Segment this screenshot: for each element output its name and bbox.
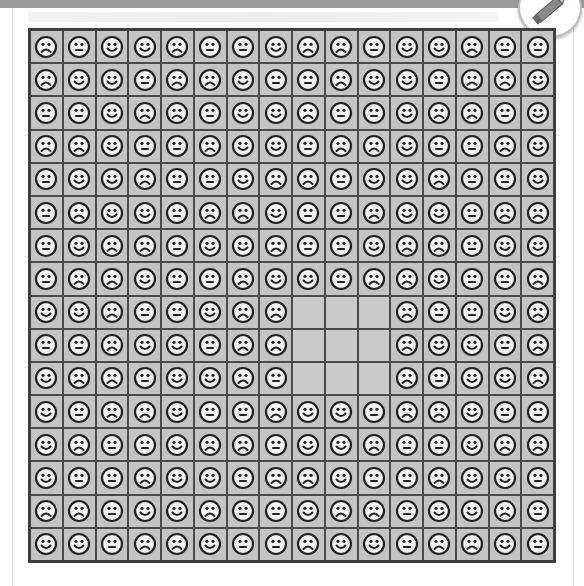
grid-cell[interactable] [522, 529, 553, 560]
grid-cell[interactable] [260, 230, 291, 261]
grid-cell[interactable] [359, 429, 390, 460]
grid-cell[interactable] [228, 230, 259, 261]
grid-cell[interactable] [129, 263, 160, 294]
grid-cell[interactable] [522, 363, 553, 394]
grid-cell[interactable] [31, 64, 62, 95]
empty-slot[interactable] [326, 297, 357, 328]
grid-cell[interactable] [97, 164, 128, 195]
grid-cell[interactable] [424, 462, 455, 493]
grid-cell[interactable] [64, 263, 95, 294]
grid-cell[interactable] [260, 330, 291, 361]
grid-cell[interactable] [391, 429, 422, 460]
grid-cell[interactable] [293, 164, 324, 195]
grid-cell[interactable] [195, 462, 226, 493]
grid-cell[interactable] [522, 263, 553, 294]
grid-cell[interactable] [391, 164, 422, 195]
grid-cell[interactable] [129, 64, 160, 95]
grid-cell[interactable] [97, 131, 128, 162]
grid-cell[interactable] [228, 462, 259, 493]
empty-slot[interactable] [293, 330, 324, 361]
grid-cell[interactable] [424, 529, 455, 560]
grid-cell[interactable] [162, 429, 193, 460]
grid-cell[interactable] [195, 496, 226, 527]
grid-cell[interactable] [522, 230, 553, 261]
empty-slot[interactable] [326, 330, 357, 361]
grid-cell[interactable] [391, 529, 422, 560]
grid-cell[interactable] [424, 297, 455, 328]
grid-cell[interactable] [228, 496, 259, 527]
grid-cell[interactable] [490, 429, 521, 460]
grid-cell[interactable] [195, 64, 226, 95]
grid-cell[interactable] [424, 396, 455, 427]
grid-cell[interactable] [359, 197, 390, 228]
grid-cell[interactable] [490, 297, 521, 328]
grid-cell[interactable] [31, 97, 62, 128]
grid-cell[interactable] [31, 529, 62, 560]
grid-cell[interactable] [97, 297, 128, 328]
grid-cell[interactable] [195, 230, 226, 261]
grid-cell[interactable] [195, 297, 226, 328]
grid-cell[interactable] [424, 31, 455, 62]
grid-cell[interactable] [228, 529, 259, 560]
grid-cell[interactable] [162, 297, 193, 328]
grid-cell[interactable] [162, 64, 193, 95]
grid-cell[interactable] [359, 164, 390, 195]
grid-cell[interactable] [490, 31, 521, 62]
grid-cell[interactable] [326, 64, 357, 95]
grid-cell[interactable] [457, 363, 488, 394]
grid-cell[interactable] [457, 230, 488, 261]
grid-cell[interactable] [293, 230, 324, 261]
grid-cell[interactable] [228, 330, 259, 361]
grid-cell[interactable] [359, 263, 390, 294]
grid-cell[interactable] [129, 164, 160, 195]
grid-cell[interactable] [228, 97, 259, 128]
grid-cell[interactable] [293, 462, 324, 493]
grid-cell[interactable] [490, 396, 521, 427]
grid-cell[interactable] [64, 230, 95, 261]
grid-cell[interactable] [293, 64, 324, 95]
grid-cell[interactable] [260, 363, 291, 394]
grid-cell[interactable] [162, 197, 193, 228]
grid-cell[interactable] [31, 131, 62, 162]
grid-cell[interactable] [260, 263, 291, 294]
grid-cell[interactable] [162, 230, 193, 261]
grid-cell[interactable] [490, 363, 521, 394]
grid-cell[interactable] [129, 230, 160, 261]
grid-cell[interactable] [64, 297, 95, 328]
grid-cell[interactable] [64, 131, 95, 162]
grid-cell[interactable] [97, 31, 128, 62]
grid-cell[interactable] [326, 197, 357, 228]
grid-cell[interactable] [228, 131, 259, 162]
grid-cell[interactable] [97, 64, 128, 95]
grid-cell[interactable] [522, 297, 553, 328]
grid-cell[interactable] [162, 529, 193, 560]
grid-cell[interactable] [97, 396, 128, 427]
grid-cell[interactable] [522, 97, 553, 128]
grid-cell[interactable] [359, 396, 390, 427]
grid-cell[interactable] [490, 263, 521, 294]
grid-cell[interactable] [64, 429, 95, 460]
grid-cell[interactable] [97, 330, 128, 361]
grid-cell[interactable] [424, 263, 455, 294]
grid-cell[interactable] [359, 496, 390, 527]
grid-cell[interactable] [195, 197, 226, 228]
grid-cell[interactable] [129, 197, 160, 228]
grid-cell[interactable] [490, 462, 521, 493]
grid-cell[interactable] [293, 263, 324, 294]
grid-cell[interactable] [162, 97, 193, 128]
grid-cell[interactable] [326, 429, 357, 460]
grid-cell[interactable] [64, 97, 95, 128]
grid-cell[interactable] [260, 131, 291, 162]
grid-cell[interactable] [293, 197, 324, 228]
grid-cell[interactable] [162, 164, 193, 195]
grid-cell[interactable] [64, 197, 95, 228]
grid-cell[interactable] [293, 31, 324, 62]
grid-cell[interactable] [391, 263, 422, 294]
grid-cell[interactable] [457, 64, 488, 95]
grid-cell[interactable] [228, 31, 259, 62]
grid-cell[interactable] [260, 529, 291, 560]
grid-cell[interactable] [195, 263, 226, 294]
grid-cell[interactable] [260, 496, 291, 527]
grid-cell[interactable] [129, 429, 160, 460]
grid-cell[interactable] [522, 131, 553, 162]
